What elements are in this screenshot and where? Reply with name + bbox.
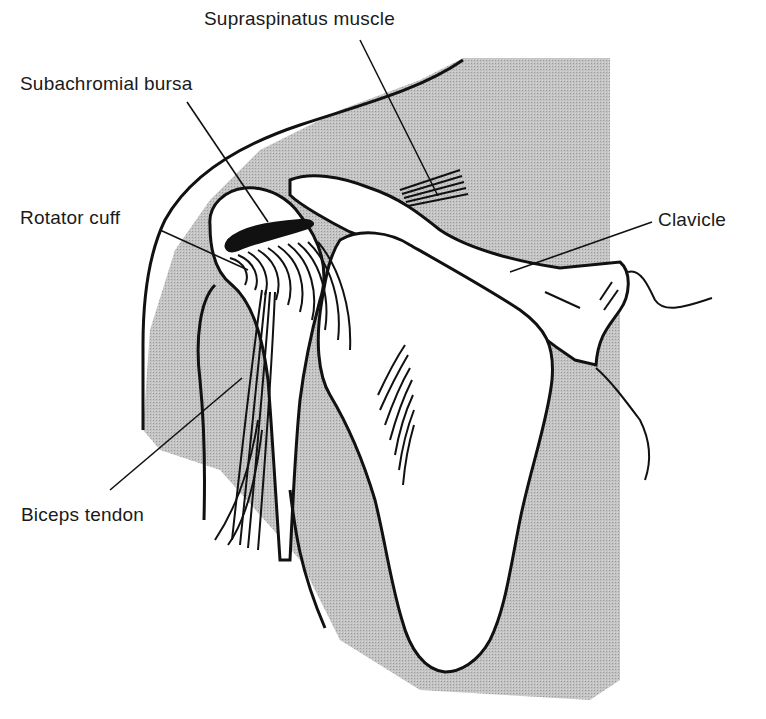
- label-clavicle: Clavicle: [658, 209, 726, 231]
- shoulder-anatomy-diagram: Supraspinatus muscle Subachromial bursa …: [0, 0, 766, 719]
- label-subachromial-bursa: Subachromial bursa: [20, 73, 193, 95]
- label-supraspinatus-muscle: Supraspinatus muscle: [204, 8, 395, 30]
- label-rotator-cuff: Rotator cuff: [20, 207, 120, 229]
- anatomy-illustration: [0, 0, 766, 719]
- label-biceps-tendon: Biceps tendon: [21, 504, 144, 526]
